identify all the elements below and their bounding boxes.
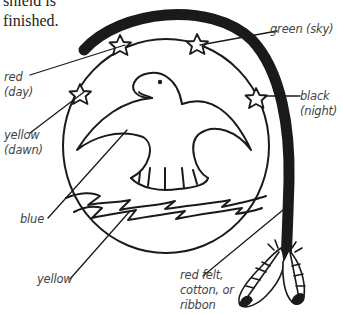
label-green-sky: green (sky): [270, 22, 333, 37]
label-red-felt: red felt, cotton, or ribbon: [180, 268, 234, 313]
label-red-day: red (day): [4, 70, 33, 100]
eagle-icon: [77, 73, 251, 190]
label-black-night: black (night): [300, 89, 337, 119]
label-yellow-dawn: yellow (dawn): [4, 128, 43, 158]
shield-illustration: [0, 0, 343, 314]
leader-lines: [30, 31, 300, 279]
label-yellow: yellow: [37, 272, 73, 287]
star-icon: [70, 34, 268, 108]
shield-circle: [63, 39, 269, 253]
label-blue: blue: [20, 212, 44, 227]
wave-lines: [66, 193, 266, 220]
feather-icon: [239, 240, 305, 307]
